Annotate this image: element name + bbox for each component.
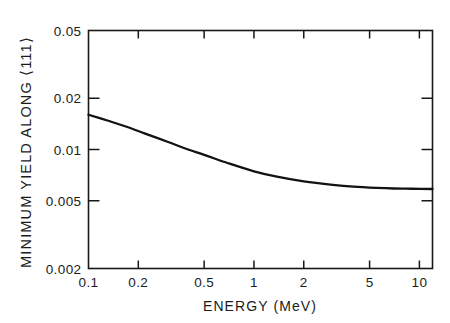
- x-tick-label-0.5: 0.5: [194, 275, 214, 290]
- x-tick-label-10: 10: [411, 275, 427, 290]
- x-tick-label-0.1: 0.1: [79, 275, 99, 290]
- y-tick-label-0.02: 0.02: [54, 91, 82, 106]
- y-tick-label-0.002: 0.002: [46, 262, 82, 277]
- x-tick-label-5: 5: [366, 275, 374, 290]
- x-tick-label-2: 2: [300, 275, 308, 290]
- y-tick-label-0.01: 0.01: [54, 143, 82, 158]
- chart-figure: 0.10.20.512510 0.050.020.010.0050.002 EN…: [0, 0, 450, 323]
- x-tick-label-1: 1: [250, 275, 258, 290]
- minimum-yield-vs-energy-plot: 0.10.20.512510 0.050.020.010.0050.002 EN…: [0, 0, 450, 323]
- x-tick-label-0.2: 0.2: [128, 275, 148, 290]
- y-tick-label-0.05: 0.05: [54, 24, 82, 39]
- y-tick-label-0.005: 0.005: [46, 194, 82, 209]
- x-axis-title: ENERGY (MeV): [203, 298, 317, 314]
